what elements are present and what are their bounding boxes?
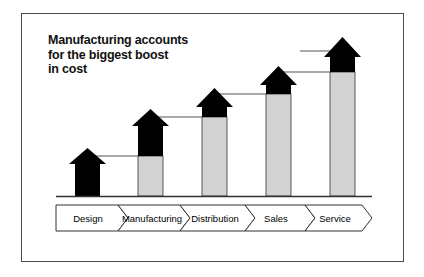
chevron-label-manufacturing: Manufacturing [122, 213, 182, 224]
chevron-design[interactable]: Design [56, 205, 128, 231]
chevron-service[interactable]: Service [305, 205, 372, 231]
chevron-label-distribution: Distribution [191, 213, 239, 224]
chevron-manufacturing[interactable]: Manufacturing [118, 205, 190, 231]
chevron-label-sales: Sales [264, 213, 288, 224]
chevron-label-design: Design [73, 213, 103, 224]
chevron-label-service: Service [319, 213, 351, 224]
chevron-distribution[interactable]: Distribution [180, 205, 255, 231]
chart-figure: Manufacturing accounts for the biggest b… [0, 0, 424, 277]
chevron-sales[interactable]: Sales [245, 205, 315, 231]
process-chevron-band: Design Manufacturing Distribution Sales … [0, 0, 424, 277]
